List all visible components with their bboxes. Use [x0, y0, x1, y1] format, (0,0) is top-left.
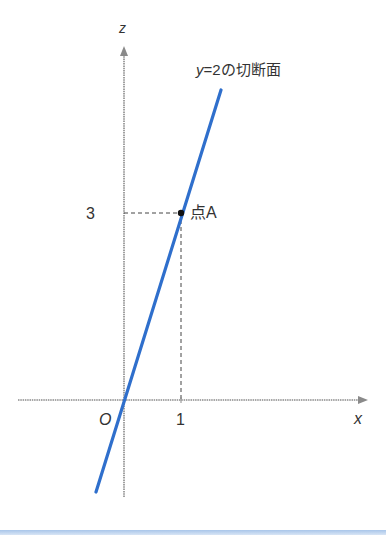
bottom-divider-band	[0, 530, 386, 535]
diagram-canvas	[0, 0, 386, 535]
point-a-marker	[178, 210, 184, 216]
line-label: y=2の切断面	[196, 62, 281, 77]
x-tick-label: 1	[176, 412, 185, 428]
origin-label: O	[99, 412, 111, 428]
z-axis	[120, 46, 128, 497]
x-axis	[18, 396, 368, 404]
x-axis-label: x	[354, 411, 362, 427]
z-axis-label: z	[119, 21, 126, 35]
line-label-var: y	[196, 61, 204, 78]
point-a-label: 点A	[190, 205, 217, 221]
z-tick-label: 3	[86, 206, 95, 222]
line-label-text: =2の切断面	[204, 61, 281, 78]
section-line	[96, 90, 221, 492]
